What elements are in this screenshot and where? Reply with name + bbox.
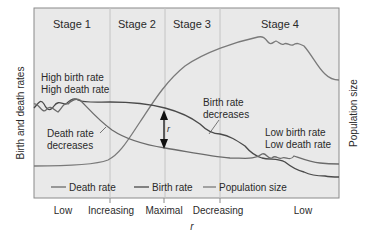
x-tick-label-low-1: Low xyxy=(54,205,73,216)
annotation-birth-decreases-1: Birth rate xyxy=(203,97,244,108)
x-tick-label-increasing: Increasing xyxy=(88,205,134,216)
annotation-death-decreases-2: decreases xyxy=(47,140,93,151)
plot-area xyxy=(34,8,339,198)
x-tick-label-low-2: Low xyxy=(294,205,313,216)
annotation-high-birth: High birth rate xyxy=(41,72,104,83)
annotation-low-death: Low death rate xyxy=(265,139,332,150)
stage-1-label: Stage 1 xyxy=(53,18,91,30)
x-tick-label-decreasing: Decreasing xyxy=(193,205,244,216)
x-tick-label-maximal: Maximal xyxy=(145,205,182,216)
stage-4-label: Stage 4 xyxy=(261,18,299,30)
legend-population-label: Population size xyxy=(219,182,287,193)
stage-3-label: Stage 3 xyxy=(173,18,211,30)
demographic-transition-chart: Stage 1 Stage 2 Stage 3 Stage 4 r High b… xyxy=(0,0,373,236)
legend-birth-label: Birth rate xyxy=(152,182,193,193)
legend-death-label: Death rate xyxy=(69,182,116,193)
x-axis-label: r xyxy=(190,221,194,232)
annotation-high-death: High death rate xyxy=(41,84,110,95)
y-axis-right-label: Population size xyxy=(348,79,359,147)
annotation-birth-decreases-2: decreases xyxy=(203,109,249,120)
legend: Death rate Birth rate Population size xyxy=(51,182,287,193)
annotation-death-decreases-1: Death rate xyxy=(47,128,94,139)
stage-2-label: Stage 2 xyxy=(118,18,156,30)
annotation-low-birth: Low birth rate xyxy=(265,127,326,138)
y-axis-left-label: Birth and death rates xyxy=(15,67,26,160)
